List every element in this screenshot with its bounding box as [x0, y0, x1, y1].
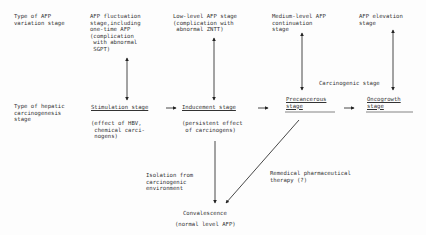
arrow-therapy — [226, 120, 299, 203]
connector-arrows — [0, 0, 426, 235]
carcinogenesis-diagram: Type of AFP variation stage Type of hepa… — [0, 0, 426, 235]
